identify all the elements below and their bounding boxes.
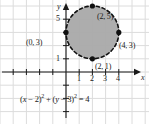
eq-plus: + ( — [44, 94, 55, 104]
point-left — [63, 30, 68, 35]
circle-graph-figure: y x 5 1 1 2 3 4 (2, 5) (4, 3) (0, 3) (2,… — [0, 0, 149, 124]
y-tick-label-1: 1 — [56, 55, 60, 63]
point-label-left: (0, 3) — [26, 39, 42, 47]
y-tick-label-5: 5 — [56, 15, 60, 23]
x-axis-arrowhead — [134, 69, 141, 75]
eq-minus-2: − 2) — [26, 94, 41, 104]
x-tick-label-4: 4 — [116, 75, 120, 83]
point-label-right: (4, 3) — [119, 42, 135, 50]
point-right — [116, 30, 121, 35]
point-label-top: (2, 5) — [97, 13, 113, 21]
x-axis-label: x — [141, 74, 144, 82]
x-tick-label-1: 1 — [77, 75, 81, 83]
coordinate-plane-plot — [0, 0, 149, 124]
x-tick-label-3: 3 — [103, 75, 107, 83]
point-label-bottom: (2, 1) — [95, 63, 111, 71]
eq-equals-4: = 4 — [77, 94, 90, 104]
x-tick-label-2: 2 — [90, 75, 94, 83]
eq-minus-3: − 3) — [59, 94, 74, 104]
y-axis-label: y — [57, 3, 60, 11]
point-top — [90, 3, 95, 8]
circle-equation-annotation: (x − 2)2 + (y − 3)2 = 4 — [20, 95, 89, 104]
point-bottom — [90, 56, 95, 61]
